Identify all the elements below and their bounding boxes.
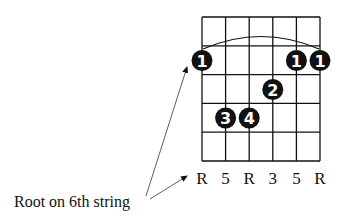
string-label: R xyxy=(244,169,256,188)
string-label: 3 xyxy=(269,169,278,188)
string-labels: R 5 R 3 5 R xyxy=(196,169,326,188)
finger-dot: 1 xyxy=(192,50,213,71)
finger-dot: 1 xyxy=(286,50,307,71)
annotation-label: Root on 6th string xyxy=(14,193,130,211)
finger-dots: 1 1 1 2 3 4 xyxy=(192,50,331,129)
svg-text:3: 3 xyxy=(220,109,231,128)
finger-dot: 1 xyxy=(310,50,331,71)
string-label: 5 xyxy=(221,169,230,188)
finger-dot: 4 xyxy=(239,108,260,129)
barre-arc xyxy=(203,37,319,50)
finger-dot: 3 xyxy=(215,108,236,129)
arrow-to-root-dot xyxy=(146,67,187,196)
chord-diagram: 1 1 1 2 3 4 R 5 R 3 5 R xyxy=(0,0,349,221)
fretboard-grid xyxy=(202,17,320,161)
finger-dot: 2 xyxy=(262,79,283,100)
string-label: 5 xyxy=(292,169,301,188)
svg-text:2: 2 xyxy=(267,81,278,100)
svg-text:1: 1 xyxy=(291,52,302,71)
string-label: R xyxy=(196,169,208,188)
svg-text:1: 1 xyxy=(196,52,207,71)
arrow-to-root-label xyxy=(150,176,187,199)
svg-text:1: 1 xyxy=(314,52,325,71)
string-label: R xyxy=(314,169,326,188)
svg-text:4: 4 xyxy=(244,109,255,128)
